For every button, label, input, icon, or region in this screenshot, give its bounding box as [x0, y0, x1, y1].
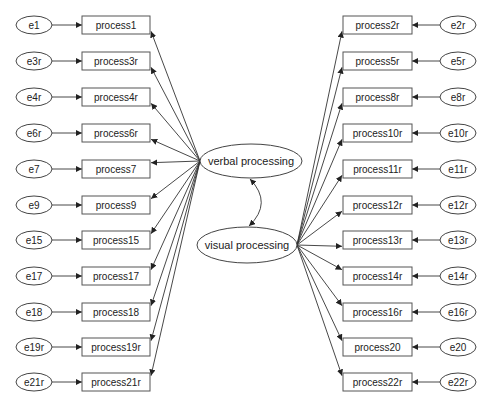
- latent-verbal-processing: verbal processing: [200, 144, 302, 178]
- error-label: e1: [28, 20, 40, 31]
- indicator-process3r: e3rprocess3r: [16, 52, 150, 70]
- indicator-label: process8r: [356, 92, 401, 103]
- indicator-label: process9: [96, 200, 137, 211]
- indicator-label: process15: [93, 235, 140, 246]
- indicator-label: process11r: [353, 164, 402, 175]
- latent-visual-processing: visual processing: [197, 227, 297, 263]
- error-label: e13r: [448, 235, 469, 246]
- loading-arrow: [297, 103, 342, 245]
- error-label: e5r: [451, 56, 466, 67]
- indicator-label: process7: [96, 164, 137, 175]
- covariance-arrow: [249, 179, 261, 226]
- indicator-process9: e9process9: [16, 196, 150, 214]
- error-label: e2r: [451, 20, 466, 31]
- indicator-process10r: e10rprocess10r: [343, 124, 476, 142]
- loading-arrow: [151, 103, 200, 161]
- indicator-process2r: e2rprocess2r: [343, 16, 476, 34]
- loading-arrow: [151, 161, 200, 234]
- error-label: e12r: [448, 200, 469, 211]
- error-label: e17: [26, 271, 43, 282]
- loading-arrow: [297, 245, 342, 306]
- indicator-process8r: e8rprocess8r: [343, 88, 476, 106]
- indicator-process19r: e19rprocess19r: [16, 338, 150, 356]
- error-label: e6r: [27, 128, 42, 139]
- loading-arrow: [297, 245, 342, 246]
- indicator-process14r: e14rprocess14r: [343, 267, 476, 285]
- loading-arrow: [297, 175, 342, 245]
- nodes-layer: e1process1e3rprocess3re4rprocess4re6rpro…: [16, 16, 476, 391]
- error-label: e21r: [24, 377, 45, 388]
- indicator-label: process14r: [353, 271, 403, 282]
- indicator-process18: e18process18: [16, 303, 150, 321]
- indicator-label: process6r: [94, 128, 139, 139]
- loading-arrow: [151, 67, 200, 161]
- indicator-process13r: e13rprocess13r: [343, 231, 476, 249]
- indicator-label: process1: [96, 20, 137, 31]
- indicator-label: process17: [93, 271, 140, 282]
- diagram-svg: e1process1e3rprocess3re4rprocess4re6rpro…: [0, 0, 491, 410]
- indicator-process4r: e4rprocess4r: [16, 88, 150, 106]
- indicator-label: process21r: [91, 377, 141, 388]
- error-label: e11r: [448, 164, 468, 175]
- indicator-process7: e7process7: [16, 160, 150, 178]
- indicator-label: process18: [93, 307, 140, 318]
- latent-label: verbal processing: [208, 155, 294, 167]
- indicator-process17: e17process17: [16, 267, 150, 285]
- indicator-label: process10r: [353, 128, 403, 139]
- loading-arrow: [151, 161, 200, 270]
- loading-arrow: [151, 161, 200, 306]
- indicator-process15: e15process15: [16, 231, 150, 249]
- sem-diagram: e1process1e3rprocess3re4rprocess4re6rpro…: [0, 0, 491, 410]
- error-label: e3r: [27, 56, 42, 67]
- indicator-label: process5r: [356, 56, 401, 67]
- error-label: e18: [26, 307, 43, 318]
- loading-arrow: [297, 31, 342, 245]
- error-label: e14r: [448, 271, 469, 282]
- indicator-process16r: e16rprocess16r: [343, 303, 476, 321]
- error-label: e9: [28, 200, 40, 211]
- error-label: e15: [26, 235, 43, 246]
- loading-arrow: [151, 161, 200, 341]
- error-label: e20: [450, 342, 467, 353]
- error-label: e10r: [448, 128, 469, 139]
- indicator-label: process2r: [356, 20, 401, 31]
- loading-arrow: [151, 161, 200, 163]
- indicator-label: process22r: [353, 377, 403, 388]
- indicator-label: process13r: [353, 235, 403, 246]
- indicator-label: process19r: [91, 342, 141, 353]
- indicator-process6r: e6rprocess6r: [16, 124, 150, 142]
- error-label: e8r: [451, 92, 466, 103]
- loading-arrow: [297, 245, 342, 270]
- indicator-label: process20: [354, 342, 401, 353]
- indicator-label: process3r: [94, 56, 139, 67]
- indicator-label: process12r: [353, 200, 403, 211]
- indicator-process20: e20process20: [343, 338, 476, 356]
- indicator-label: process16r: [353, 307, 403, 318]
- indicator-process21r: e21rprocess21r: [16, 373, 150, 391]
- error-label: e7: [28, 164, 40, 175]
- indicator-process22r: e22rprocess22r: [343, 373, 476, 391]
- error-label: e19r: [24, 342, 45, 353]
- loading-arrow: [297, 245, 342, 341]
- error-label: e22r: [448, 377, 469, 388]
- indicator-label: process4r: [94, 92, 139, 103]
- indicator-process1: e1process1: [16, 16, 150, 34]
- loading-arrow: [151, 31, 200, 161]
- error-label: e16r: [448, 307, 469, 318]
- indicator-process5r: e5rprocess5r: [343, 52, 476, 70]
- error-label: e4r: [27, 92, 42, 103]
- indicator-process12r: e12rprocess12r: [343, 196, 476, 214]
- latent-label: visual processing: [205, 239, 289, 251]
- loading-arrow: [297, 245, 342, 376]
- indicator-process11r: e11rprocess11r: [343, 160, 476, 178]
